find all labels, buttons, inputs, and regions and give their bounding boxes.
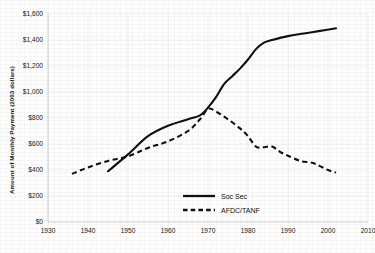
- y-tick-label: $400: [28, 166, 43, 173]
- x-tick-label: 1970: [201, 227, 216, 234]
- grid-layer: [48, 14, 368, 222]
- chart-container: $0$200$400$600$800$1,000$1,200$1,400$1,6…: [0, 0, 375, 253]
- y-tick-label: $1,400: [23, 36, 44, 43]
- x-tick-label: 2010: [361, 227, 375, 234]
- y-tick-label: $600: [28, 140, 43, 147]
- y-tick-label: $200: [28, 192, 43, 199]
- y-tick-label: $0: [36, 218, 44, 225]
- x-tick-label: 2000: [321, 227, 336, 234]
- y-tick-label: $1,000: [23, 88, 44, 95]
- series-line-afdc-tanf: [72, 109, 336, 174]
- y-tick-label: $1,200: [23, 62, 44, 69]
- x-tick-label: 1990: [281, 227, 296, 234]
- x-tick-label-layer: 193019401950196019701980199020002010: [41, 227, 375, 234]
- x-tick-label: 1930: [41, 227, 56, 234]
- x-tick-label: 1940: [81, 227, 96, 234]
- series-line-soc-sec: [108, 28, 336, 171]
- legend-label-soc-sec: Soc Sec: [221, 193, 248, 200]
- series-layer: [72, 28, 336, 174]
- x-tick-label: 1980: [241, 227, 256, 234]
- x-tick-label: 1950: [121, 227, 136, 234]
- y-tick-label: $1,600: [23, 10, 44, 17]
- y-tick-label-layer: $0$200$400$600$800$1,000$1,200$1,400$1,6…: [23, 10, 44, 225]
- y-tick-label: $800: [28, 114, 43, 121]
- chart-plot-svg: $0$200$400$600$800$1,000$1,200$1,400$1,6…: [0, 0, 375, 253]
- y-axis-title-group: Amount of Monthly Payment (2003 dollars): [8, 66, 15, 194]
- y-axis-title: Amount of Monthly Payment (2003 dollars): [8, 66, 15, 194]
- line-chart-figure: $0$200$400$600$800$1,000$1,200$1,400$1,6…: [0, 0, 375, 253]
- legend-label-afdc-tanf: AFDC/TANF: [221, 207, 260, 214]
- x-tick-label: 1960: [161, 227, 176, 234]
